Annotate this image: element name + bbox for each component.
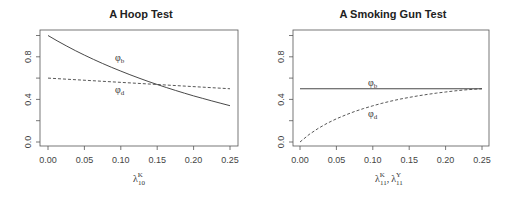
plot-box <box>293 30 489 146</box>
chart-title: A Hoop Test <box>109 8 173 20</box>
phi-d-label: φd <box>368 108 378 121</box>
y-axis: 0.0 0.4 0.8 <box>276 36 293 149</box>
x-tick-label: 0.05 <box>328 155 346 165</box>
x-axis-label: λK11,λY11 <box>375 171 403 187</box>
y-tick-label: 0.0 <box>23 136 33 149</box>
figure: A Hoop Test 0.0 0.4 0.8 0.00 0.05 0.10 0… <box>0 0 505 197</box>
y-tick-label: 0.0 <box>276 136 286 149</box>
hoop-test-chart: A Hoop Test 0.0 0.4 0.8 0.00 0.05 0.10 0… <box>23 8 239 187</box>
phi-d-line <box>300 89 482 142</box>
phi-d-label: φd <box>115 84 125 97</box>
phi-b-line <box>48 36 230 106</box>
x-tick-label: 0.20 <box>185 155 203 165</box>
x-axis: 0.00 0.05 0.10 0.15 0.20 0.25 <box>39 146 239 165</box>
x-tick-label: 0.15 <box>400 155 418 165</box>
x-tick-label: 0.00 <box>39 155 57 165</box>
x-tick-label: 0.05 <box>76 155 94 165</box>
x-tick-label: 0.10 <box>112 155 130 165</box>
phi-d-line <box>48 78 230 89</box>
x-axis-label: λK10 <box>133 171 145 187</box>
y-tick-label: 0.4 <box>23 93 33 106</box>
phi-b-label: φb <box>115 52 125 65</box>
y-tick-label: 0.8 <box>23 51 33 64</box>
x-tick-label: 0.15 <box>148 155 166 165</box>
x-axis: 0.00 0.05 0.10 0.15 0.20 0.25 <box>291 146 491 165</box>
x-tick-label: 0.20 <box>437 155 455 165</box>
x-tick-label: 0.25 <box>473 155 491 165</box>
y-tick-label: 0.4 <box>276 93 286 106</box>
x-tick-label: 0.10 <box>364 155 382 165</box>
x-tick-label: 0.00 <box>291 155 309 165</box>
x-tick-label: 0.25 <box>221 155 239 165</box>
chart-title: A Smoking Gun Test <box>340 8 447 20</box>
y-axis: 0.0 0.4 0.8 <box>23 36 40 149</box>
smoking-gun-test-chart: A Smoking Gun Test 0.0 0.4 0.8 0.00 0.05… <box>276 8 491 187</box>
y-tick-label: 0.8 <box>276 51 286 64</box>
phi-b-label: φb <box>368 77 378 90</box>
